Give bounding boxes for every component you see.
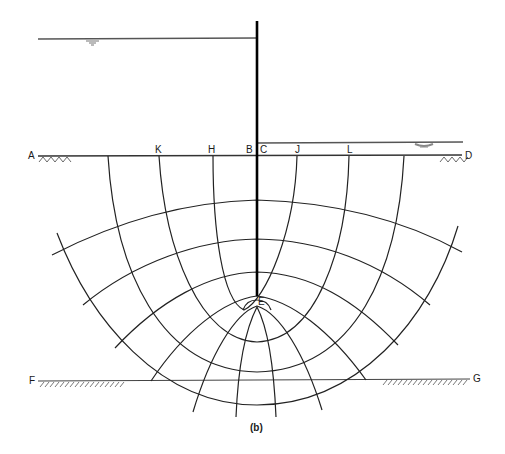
label-E: E [258,297,265,307]
equipotential-5 [193,306,322,412]
upstream-water-level [38,38,256,45]
downstream-water-level [258,142,463,147]
label-L: L [347,145,353,155]
label-B: B [246,145,253,155]
label-D: D [465,151,472,161]
label-F: F [29,376,35,386]
label-H: H [208,145,215,155]
label-A: A [28,151,35,161]
figure-caption: (b) [250,423,263,433]
label-C: C [260,145,267,155]
label-J: J [295,145,300,155]
label-G: G [473,374,481,384]
equipotential-6 [236,307,276,417]
impermeable-layer-FG [38,379,470,387]
flow-line-1 [213,156,297,310]
flow-net-diagram [0,0,505,454]
label-K: K [155,145,162,155]
